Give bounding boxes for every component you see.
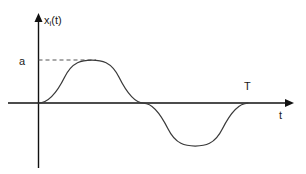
x-axis-arrow-icon (285, 99, 294, 107)
period-label: T (244, 81, 251, 92)
sine-wave-figure: xi(t) t a T (0, 0, 306, 174)
x-axis-label: t (279, 110, 282, 121)
y-axis-arrow-icon (35, 13, 43, 22)
y-axis-label-base: x (44, 14, 50, 26)
plot-canvas (0, 0, 306, 174)
y-axis-label-tail: (t) (51, 14, 61, 26)
y-axis-label: xi(t) (44, 15, 62, 26)
amplitude-label: a (19, 56, 25, 67)
